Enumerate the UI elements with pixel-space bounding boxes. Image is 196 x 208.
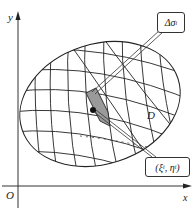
delta-sigma-symbol: Δσ	[165, 17, 176, 28]
paren-close: )	[176, 162, 179, 173]
callout-sample-point: ( ξi , ηi )	[145, 157, 190, 177]
delta-sigma-subscript: i	[176, 20, 178, 26]
sample-point-dot	[90, 107, 96, 113]
y-axis-label: y	[8, 12, 13, 23]
callout-delta-sigma: Δσi	[157, 12, 185, 33]
origin-label: O	[6, 190, 14, 201]
callout-leader-delta-sigma	[92, 30, 163, 94]
region-label: D	[147, 110, 155, 121]
y-axis-arrow-icon	[16, 11, 21, 20]
x-axis	[2, 184, 192, 189]
area-element-cell	[86, 88, 110, 126]
x-axis-label: x	[183, 193, 187, 203]
x-axis-arrow-icon	[183, 184, 192, 189]
diagram: y x O D Δσi ( ξi , ηi )	[0, 0, 196, 208]
